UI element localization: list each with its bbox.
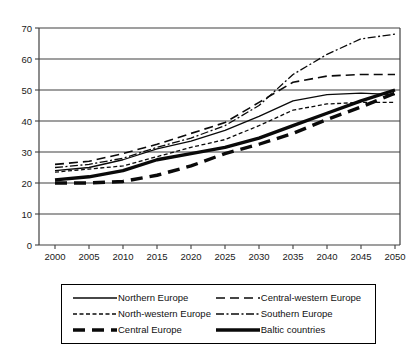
- legend-item-southern-europe: Southern Europe: [215, 306, 369, 321]
- legend-item-baltic-countries: Baltic countries: [215, 322, 369, 337]
- y-tick-label: 30: [21, 147, 32, 158]
- legend-item-northern-europe: Northern Europe: [72, 290, 215, 305]
- y-tick-label: 70: [21, 23, 32, 34]
- y-tick-label: 60: [21, 54, 32, 65]
- legend-line-sample-central-western-europe: [215, 293, 261, 303]
- legend-label: Baltic countries: [261, 322, 325, 337]
- y-tick-label: 0: [27, 240, 32, 251]
- y-tick-label: 20: [21, 178, 32, 189]
- legend-label: Central-western Europe: [261, 290, 361, 305]
- figure: 0102030405060702000200520102015202020252…: [0, 0, 418, 358]
- legend-label: North-western Europe: [118, 306, 211, 321]
- x-tick-label: 2045: [350, 251, 371, 262]
- x-tick-label: 2005: [78, 251, 99, 262]
- x-tick-label: 2040: [316, 251, 337, 262]
- legend-box: Northern EuropeCentral-western EuropeNor…: [61, 284, 376, 344]
- legend-line-sample-baltic-countries: [215, 325, 261, 335]
- legend-line-sample-southern-europe: [215, 309, 261, 319]
- x-tick-label: 2010: [112, 251, 133, 262]
- y-tick-label: 50: [21, 85, 32, 96]
- x-tick-label: 2035: [282, 251, 303, 262]
- legend-item-north-western-europe: North-western Europe: [72, 306, 215, 321]
- legend-label: Southern Europe: [261, 306, 333, 321]
- legend-line-sample-northern-europe: [72, 293, 118, 303]
- x-tick-label: 2015: [146, 251, 167, 262]
- x-tick-label: 2025: [214, 251, 235, 262]
- x-tick-label: 2020: [180, 251, 201, 262]
- line-chart: 0102030405060702000200520102015202020252…: [0, 0, 418, 270]
- x-tick-label: 2030: [248, 251, 269, 262]
- y-tick-label: 10: [21, 209, 32, 220]
- legend-label: Northern Europe: [118, 290, 188, 305]
- x-tick-label: 2000: [44, 251, 65, 262]
- legend-line-sample-north-western-europe: [72, 309, 118, 319]
- legend-item-central-europe: Central Europe: [72, 322, 215, 337]
- legend-label: Central Europe: [118, 322, 182, 337]
- x-tick-label: 2050: [384, 251, 405, 262]
- y-tick-label: 40: [21, 116, 32, 127]
- legend-item-central-western-europe: Central-western Europe: [215, 290, 369, 305]
- series-line-central-western-europe: [55, 75, 395, 165]
- series-line-northern-europe: [55, 93, 395, 171]
- legend-line-sample-central-europe: [72, 325, 118, 335]
